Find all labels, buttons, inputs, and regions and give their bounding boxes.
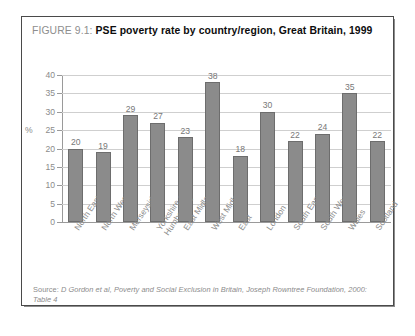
bar-value-label: 22	[373, 130, 383, 140]
y-axis-tick-label: 40	[29, 70, 55, 80]
gridline	[62, 75, 391, 76]
chart-canvas: 4035302520151050 % 201929272338183022243…	[22, 65, 395, 307]
bar-value-label: 35	[345, 82, 355, 92]
y-axis-tick-mark	[57, 112, 62, 113]
bar-value-label: 30	[263, 100, 273, 110]
y-axis-tick-mark	[57, 93, 62, 94]
source-label: Source:	[33, 285, 59, 294]
y-axis-tick-mark	[57, 149, 62, 150]
bar-value-label: 23	[181, 126, 191, 136]
bar-value-label: 38	[208, 71, 218, 81]
y-axis-tick-mark	[57, 222, 62, 223]
bar-value-label: 18	[235, 144, 245, 154]
y-axis-tick-mark	[57, 185, 62, 186]
y-axis-tick-label: 30	[29, 107, 55, 117]
y-axis-tick-labels: 4035302520151050	[22, 75, 55, 223]
y-axis-unit-label: %	[25, 125, 33, 135]
bar	[370, 141, 385, 222]
bar	[260, 112, 275, 222]
y-axis-tick-mark	[57, 167, 62, 168]
source-note: Source: D Gordon et al, Poverty and Soci…	[33, 285, 385, 305]
y-axis-tick-mark	[57, 130, 62, 131]
y-axis-tick-mark	[57, 204, 62, 205]
bar	[315, 134, 330, 222]
y-axis-tick-label: 5	[29, 199, 55, 209]
y-axis-tick-mark	[57, 75, 62, 76]
bar-value-label: 19	[98, 141, 108, 151]
y-axis-tick-label: 35	[29, 88, 55, 98]
page-title: PSE poverty rate by country/region, Grea…	[96, 25, 373, 36]
bar-value-label: 24	[318, 122, 328, 132]
y-axis-tick-label: 15	[29, 162, 55, 172]
bar	[288, 141, 303, 222]
source-text: D Gordon et al, Poverty and Social Exclu…	[33, 285, 367, 304]
figure-number: FIGURE 9.1:	[32, 25, 93, 36]
figure-caption: FIGURE 9.1: PSE poverty rate by country/…	[32, 24, 384, 39]
figure-panel: FIGURE 9.1: PSE poverty rate by country/…	[21, 16, 394, 306]
bar-value-label: 29	[126, 104, 136, 114]
y-axis-tick-label: 0	[29, 217, 55, 227]
bar-value-label: 27	[153, 111, 163, 121]
y-axis-tick-label: 10	[29, 180, 55, 190]
bar-value-label: 20	[71, 137, 81, 147]
y-axis-tick-label: 20	[29, 144, 55, 154]
bar-value-label: 22	[290, 130, 300, 140]
